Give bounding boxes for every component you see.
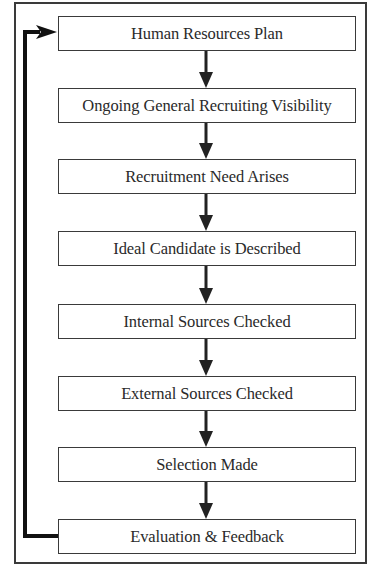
step-ongoing-recruiting-visibility: Ongoing General Recruiting Visibility [58,88,356,123]
step-internal-sources-checked: Internal Sources Checked [58,304,356,339]
step-external-sources-checked: External Sources Checked [58,376,356,411]
step-recruitment-need-arises: Recruitment Need Arises [58,159,356,194]
step-human-resources-plan: Human Resources Plan [58,16,356,51]
step-evaluation-feedback: Evaluation & Feedback [58,519,356,554]
step-selection-made: Selection Made [58,447,356,482]
step-ideal-candidate-described: Ideal Candidate is Described [58,231,356,266]
